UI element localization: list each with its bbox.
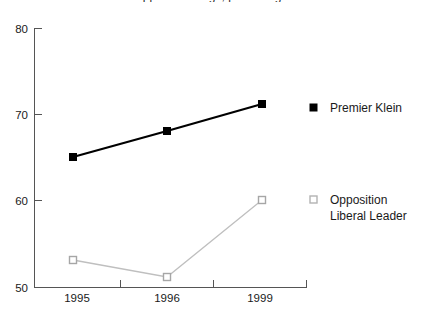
x-tick-label-1995: 1995: [64, 292, 90, 304]
series-opposition-point-1996: [164, 274, 171, 281]
chart-plot-area: 80 70 60 50 1995 1996 1999: [0, 0, 423, 317]
legend-item-premier-klein[interactable]: Premier Klein: [310, 101, 402, 115]
y-axis-tick-labels: 80 70 60 50: [15, 23, 28, 294]
legend-swatch-open-square: [310, 196, 317, 203]
x-axis-tick-labels: 1995 1996 1999: [64, 292, 273, 304]
legend-label-opposition-line1: Opposition: [330, 193, 387, 207]
x-tick-label-1996: 1996: [154, 292, 180, 304]
y-tick-label-80: 80: [15, 23, 28, 35]
legend-swatch-filled-square: [310, 104, 317, 111]
chart-legend: Premier Klein Opposition Liberal Leader: [310, 101, 407, 223]
legend-label-opposition-line2: Liberal Leader: [330, 209, 407, 223]
series-premier-point-1996: [164, 128, 171, 135]
x-tick-label-1999: 1999: [247, 292, 273, 304]
series-opposition-point-1995: [70, 257, 77, 264]
series-premier-point-1995: [70, 154, 77, 161]
chart-container: Approval ratings, percentage 80 70 60 50: [0, 0, 423, 317]
legend-label-premier-klein: Premier Klein: [330, 101, 402, 115]
y-tick-label-50: 50: [15, 282, 28, 294]
series-opposition-point-1999: [259, 197, 266, 204]
y-tick-label-60: 60: [15, 195, 28, 207]
series-opposition-liberal-leader: [70, 197, 266, 281]
legend-item-opposition-liberal-leader[interactable]: Opposition Liberal Leader: [310, 193, 407, 223]
y-axis-ticks: [35, 29, 43, 288]
series-opposition-line: [73, 200, 262, 277]
series-premier-point-1999: [259, 101, 266, 108]
series-premier-klein: [70, 101, 266, 161]
y-tick-label-70: 70: [15, 109, 28, 121]
